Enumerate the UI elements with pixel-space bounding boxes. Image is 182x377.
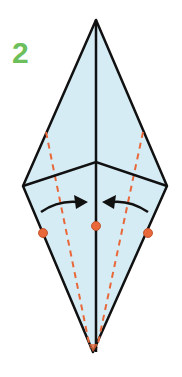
- origami-diagram: [0, 0, 182, 377]
